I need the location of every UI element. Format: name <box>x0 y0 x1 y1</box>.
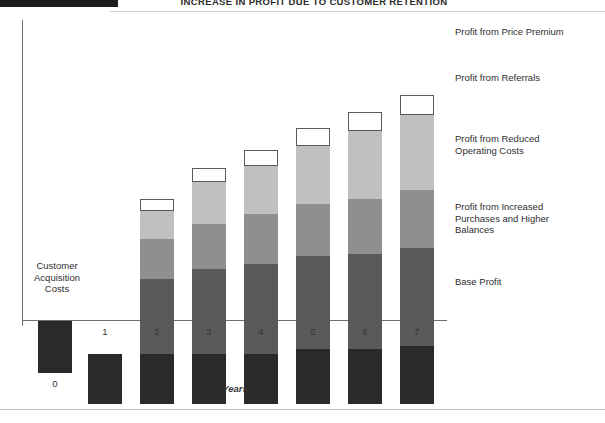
x-tick-6: 6 <box>348 326 382 337</box>
segment-referrals <box>348 131 382 199</box>
segment-reduced-operating-costs <box>192 224 226 269</box>
customer-acquisition-costs-label: Customer Acquisition Costs <box>18 260 96 295</box>
chart-header: INCREASE IN PROFIT DUE TO CUSTOMER RETEN… <box>0 0 605 14</box>
segment-referrals <box>244 166 278 214</box>
segment-reduced-operating-costs <box>140 239 174 279</box>
x-tick-7: 7 <box>400 326 434 337</box>
legend-label-increased-purchases: Profit from Increased Purchases and High… <box>455 201 603 236</box>
segment-price-premium <box>400 95 434 115</box>
chart-page: INCREASE IN PROFIT DUE TO CUSTOMER RETEN… <box>0 0 605 423</box>
segment-referrals <box>400 115 434 190</box>
x-tick-1: 1 <box>88 326 122 337</box>
bar-year-3 <box>192 168 226 404</box>
bar-year-7 <box>400 95 434 404</box>
plot-area: 0 1 2 3 4 5 6 7 Customer Acquisition Cos… <box>0 14 605 404</box>
segment-price-premium <box>348 112 382 131</box>
segment-referrals <box>140 211 174 239</box>
x-tick-2: 2 <box>140 326 174 337</box>
segment-reduced-operating-costs <box>348 199 382 254</box>
segment-price-premium <box>244 150 278 166</box>
segment-reduced-operating-costs <box>400 190 434 248</box>
bar-year-5 <box>296 128 330 404</box>
segment-price-premium <box>296 128 330 146</box>
segment-reduced-operating-costs <box>296 204 330 256</box>
footer-divider <box>0 409 605 410</box>
segment-base-profit <box>296 349 330 404</box>
legend-label-reduced-operating-costs: Profit from Reduced Operating Costs <box>455 133 603 156</box>
segment-increased-purchases <box>192 269 226 354</box>
x-axis-title: Years <box>185 383 285 394</box>
x-axis-line <box>22 320 447 321</box>
segment-price-premium <box>192 168 226 182</box>
segment-base-profit <box>244 354 278 404</box>
segment-base-profit <box>140 354 174 404</box>
x-tick-0: 0 <box>38 378 72 389</box>
x-tick-3: 3 <box>192 326 226 337</box>
page-title: INCREASE IN PROFIT DUE TO CUSTOMER RETEN… <box>134 0 494 7</box>
segment-referrals <box>192 182 226 224</box>
x-tick-5: 5 <box>296 326 330 337</box>
segment-reduced-operating-costs <box>244 214 278 264</box>
bar-year-6 <box>348 112 382 404</box>
x-tick-4: 4 <box>244 326 278 337</box>
segment-base-profit <box>88 354 122 404</box>
segment-increased-purchases <box>244 264 278 354</box>
bar-year-4 <box>244 150 278 404</box>
bar-year-2 <box>140 199 174 404</box>
segment-base-profit <box>400 346 434 404</box>
segment-base-profit <box>192 354 226 404</box>
segment-increased-purchases <box>140 279 174 354</box>
bar-year-0 <box>38 321 72 373</box>
header-divider <box>110 11 605 12</box>
header-accent-swatch <box>0 0 118 7</box>
segment-price-premium <box>140 199 174 211</box>
legend-label-base-profit: Base Profit <box>455 276 603 288</box>
bar-year-1 <box>88 354 122 404</box>
segment-base-profit <box>348 349 382 404</box>
legend-label-price-premium: Profit from Price Premium <box>455 26 603 38</box>
segment-referrals <box>296 146 330 204</box>
legend-label-referrals: Profit from Referrals <box>455 72 603 84</box>
